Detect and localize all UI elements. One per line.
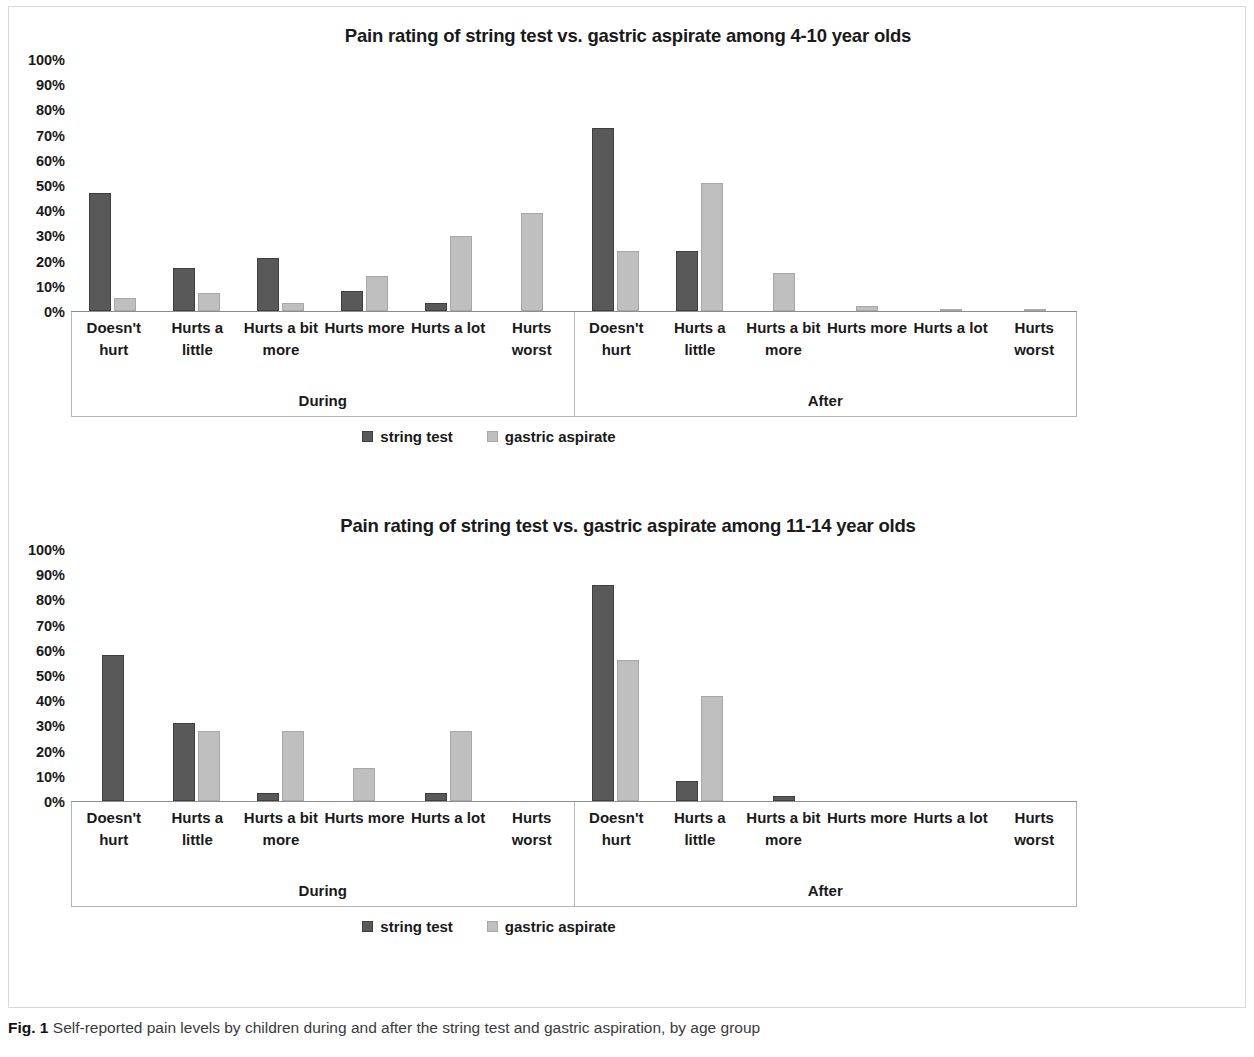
bar-string-test[interactable] [425,303,447,311]
y-axis: 100%90%80%70%60%50%40%30%20%10%0% [9,550,71,802]
group-label-during: During [72,386,574,416]
bar-gastric-aspirate[interactable] [366,276,388,311]
legend-spacer [9,907,71,935]
bar-pair [993,60,1077,311]
y-axis-tick: 90% [36,78,65,93]
bar-gastric-aspirate[interactable] [617,660,639,801]
bar-gastric-aspirate[interactable] [450,236,472,311]
category-label: Hurts a little [156,312,240,386]
legend-item-gastric-aspirate[interactable]: gastric aspirate [487,428,616,445]
x-axis-wrap: Doesn't hurtHurts a littleHurts a bit mo… [71,802,1077,907]
bar-group-after [574,60,1077,311]
bar-gastric-aspirate[interactable] [198,293,220,311]
category-label: Hurts worst [490,802,574,876]
bar-pair [658,550,742,801]
category-label: Hurts worst [992,802,1076,876]
bar-gastric-aspirate[interactable] [701,183,723,311]
bar-pair [658,60,742,311]
y-axis-tick: 90% [36,568,65,583]
bar-pair [490,60,574,311]
y-axis-tick: 10% [36,770,65,785]
bar-pair [490,550,574,801]
bar-gastric-aspirate[interactable] [617,251,639,311]
bar-pair [322,60,406,311]
legend-item-string-test[interactable]: string test [362,428,453,445]
legend-label-string-test: string test [380,918,453,935]
bar-pair [239,550,323,801]
bar-gastric-aspirate[interactable] [353,768,375,801]
chart-4-10-year-olds: Pain rating of string test vs. gastric a… [9,25,1247,445]
group-labels: DuringAfter [71,876,1077,907]
legend-item-string-test[interactable]: string test [362,918,453,935]
bar-string-test[interactable] [676,251,698,311]
bar-gastric-aspirate[interactable] [521,213,543,311]
category-label: Hurts a little [156,802,240,876]
y-axis-tick: 40% [36,204,65,219]
bar-gastric-aspirate[interactable] [114,298,136,311]
bar-string-test[interactable] [173,268,195,311]
legend-band: string test gastric aspirate [9,417,1247,445]
bar-gastric-aspirate[interactable] [701,696,723,801]
bar-gastric-aspirate[interactable] [1024,309,1046,312]
bar-string-test[interactable] [89,193,111,311]
bar-string-test[interactable] [257,258,279,311]
bar-gastric-aspirate[interactable] [282,731,304,801]
legend-band: string test gastric aspirate [9,907,1247,935]
y-axis-tick: 100% [28,543,65,558]
bar-pair [322,550,406,801]
plot-area [71,60,1077,312]
y-axis-tick: 60% [36,154,65,169]
bar-gastric-aspirate[interactable] [198,731,220,801]
group-labels: DuringAfter [71,386,1077,417]
x-axis-wrap: Doesn't hurtHurts a littleHurts a bit mo… [71,312,1077,417]
bar-string-test[interactable] [592,128,614,311]
bar-gastric-aspirate[interactable] [856,306,878,311]
category-label-group-after: Doesn't hurtHurts a littleHurts a bit mo… [574,312,1077,386]
bar-string-test[interactable] [102,655,124,801]
plot-wrap [71,60,1077,312]
bar-pair [909,550,993,801]
bar-pair [742,550,826,801]
bar-string-test[interactable] [676,781,698,801]
bar-gastric-aspirate[interactable] [282,303,304,311]
bar-string-test[interactable] [592,585,614,801]
y-axis-tick: 30% [36,719,65,734]
chart-title: Pain rating of string test vs. gastric a… [9,25,1247,47]
category-label: Doesn't hurt [575,802,659,876]
category-label: Doesn't hurt [575,312,659,386]
category-label: Hurts a bit more [742,312,826,386]
chart-legend: string test gastric aspirate [71,907,907,935]
x-axis-band: Doesn't hurtHurts a littleHurts a bit mo… [9,312,1247,417]
y-axis-tick: 30% [36,229,65,244]
legend-wrap: string test gastric aspirate [71,417,1077,445]
bar-pair [742,60,826,311]
category-label: Hurts worst [992,312,1076,386]
y-axis-tick: 20% [36,254,65,269]
bar-gastric-aspirate[interactable] [450,731,472,801]
category-labels: Doesn't hurtHurts a littleHurts a bit mo… [71,312,1077,386]
chart-legend: string test gastric aspirate [71,417,907,445]
category-label: Hurts more [825,802,909,876]
category-label: Hurts a lot [406,312,490,386]
y-axis-tick: 50% [36,669,65,684]
bar-gastric-aspirate[interactable] [940,309,962,312]
bar-string-test[interactable] [257,793,279,801]
figure-caption: Fig. 1 Self-reported pain levels by chil… [8,1018,1246,1039]
legend-label-gastric-aspirate: gastric aspirate [505,428,616,445]
category-label: Doesn't hurt [72,312,156,386]
bar-gastric-aspirate[interactable] [773,273,795,311]
category-label: Hurts more [323,312,407,386]
legend-item-gastric-aspirate[interactable]: gastric aspirate [487,918,616,935]
bar-pair [909,60,993,311]
category-label: Hurts a lot [406,802,490,876]
bar-string-test[interactable] [341,291,363,311]
y-axis-tick: 100% [28,53,65,68]
figure-page: Pain rating of string test vs. gastric a… [0,0,1254,1057]
bar-string-test[interactable] [425,793,447,801]
bar-string-test[interactable] [173,723,195,801]
legend-swatch-string-test-icon [362,921,373,932]
category-label: Hurts a bit more [742,802,826,876]
bar-string-test[interactable] [773,796,795,801]
bar-group-during [71,60,574,311]
bar-pair [71,60,155,311]
